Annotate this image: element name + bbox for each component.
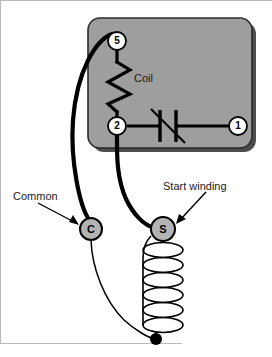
terminal-1-label: 1: [232, 121, 244, 131]
coil-label: Coil: [134, 72, 153, 84]
start-winding-callout-arrow: [176, 192, 206, 224]
terminal-start-label: S: [157, 224, 169, 234]
common-label: Common: [13, 190, 58, 202]
terminal-2-label: 2: [111, 121, 123, 131]
winding-end-dot: [150, 333, 162, 345]
diagram-canvas: Coil Common Start winding 5 2 1 C S: [0, 0, 272, 357]
terminal-5-label: 5: [111, 36, 123, 46]
start-winding-helix: [143, 236, 183, 336]
schematic-drawing: [0, 0, 272, 357]
terminal-common-label: C: [85, 224, 97, 234]
start-winding-label: Start winding: [163, 180, 227, 192]
common-callout-arrow: [38, 203, 79, 225]
